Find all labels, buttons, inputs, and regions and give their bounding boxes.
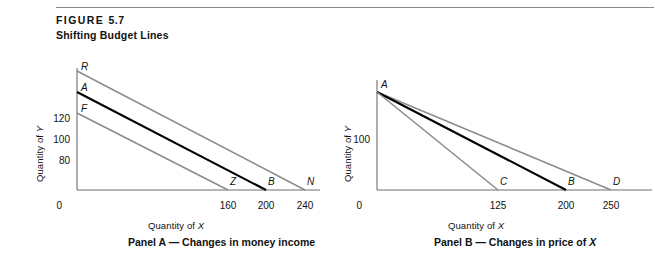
panel-b-xtick-125: 125 bbox=[481, 200, 515, 211]
panel-a-x-axis-title-text: Quantity of bbox=[148, 220, 198, 231]
header-divider bbox=[56, 7, 654, 8]
panel-b-line-AD bbox=[377, 92, 611, 190]
panel-b-x-axis-title: Quantity of X bbox=[448, 220, 504, 231]
panel-b-point-C: C bbox=[500, 176, 507, 187]
panel-b-point-A: A bbox=[381, 79, 388, 90]
panel-a-origin-label: 0 bbox=[48, 200, 62, 211]
panel-b-xtick-250: 250 bbox=[594, 200, 628, 211]
panel-a-line-FZ bbox=[77, 113, 228, 190]
panel-b-caption-var: X bbox=[589, 236, 596, 248]
panel-b-xtick-200: 200 bbox=[549, 200, 583, 211]
panel-b-line-AB bbox=[377, 92, 566, 190]
figure-number-word: FIGURE bbox=[56, 14, 104, 26]
panel-a-xtick-240: 240 bbox=[288, 200, 322, 211]
panel-b-x-axis-var: X bbox=[498, 220, 504, 231]
panel-a-caption: Panel A — Changes in money income bbox=[128, 236, 315, 248]
panel-a-ytick-80: 80 bbox=[38, 155, 70, 166]
panel-a-xtick-160: 160 bbox=[211, 200, 245, 211]
panel-a-point-Z: Z bbox=[230, 176, 236, 187]
panel-b: Quantity of Y 100 0 125 200 250 A C B D … bbox=[330, 50, 650, 256]
panel-a-point-B: B bbox=[268, 176, 275, 187]
figure-number: FIGURE 5.7 bbox=[56, 14, 125, 26]
panel-b-x-axis-title-text: Quantity of bbox=[448, 220, 498, 231]
panel-a-point-R: R bbox=[81, 61, 88, 72]
panel-a-xtick-200: 200 bbox=[249, 200, 283, 211]
panel-b-point-B: B bbox=[568, 176, 575, 187]
panel-a-x-axis-title: Quantity of X bbox=[148, 220, 204, 231]
panel-b-ytick-100: 100 bbox=[338, 134, 370, 145]
panel-b-point-D: D bbox=[613, 176, 620, 187]
figure-container: FIGURE 5.7 Shifting Budget Lines Quantit… bbox=[0, 0, 655, 256]
panel-a-ytick-120: 120 bbox=[38, 113, 70, 124]
figure-number-value: 5.7 bbox=[108, 14, 124, 26]
panel-a-ytick-100: 100 bbox=[38, 134, 70, 145]
panel-b-line-AC bbox=[377, 92, 498, 190]
panel-b-caption-text: Panel B — Changes in price of bbox=[434, 236, 589, 248]
panel-a-x-axis-var: X bbox=[198, 220, 204, 231]
panel-a-point-F: F bbox=[81, 103, 87, 114]
panel-a-point-A: A bbox=[81, 82, 88, 93]
panel-a-point-N: N bbox=[307, 176, 314, 187]
panel-b-origin-label: 0 bbox=[348, 200, 362, 211]
panel-b-caption: Panel B — Changes in price of X bbox=[434, 236, 596, 248]
panel-a-line-AB bbox=[77, 92, 266, 190]
panel-a: Quantity of Y 120 100 80 0 160 200 240 R… bbox=[2, 50, 322, 256]
figure-title: Shifting Budget Lines bbox=[56, 29, 169, 41]
